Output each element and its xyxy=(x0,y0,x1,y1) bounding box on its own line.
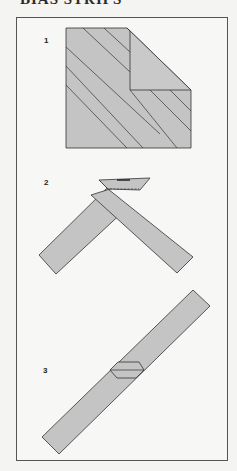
step-3-label: 3 xyxy=(43,366,47,375)
step-3-pressed-strip xyxy=(42,290,210,454)
step-2-label: 2 xyxy=(44,178,48,187)
step-1-folded-square xyxy=(66,28,191,148)
step-1-label: 1 xyxy=(44,36,48,45)
step-2-joined-strips xyxy=(39,178,193,274)
bias-strips-diagram xyxy=(0,0,237,471)
